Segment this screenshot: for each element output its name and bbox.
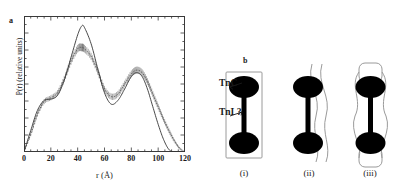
x-tick-label: 20: [47, 154, 55, 163]
x-tick-label: 0: [22, 154, 26, 163]
model-label-iii: (iii): [350, 168, 390, 178]
y-axis-label: P(r) (relative units): [15, 12, 24, 122]
x-axis-tick-labels: 020406080100120: [24, 154, 185, 166]
error-bars: [28, 43, 182, 150]
annotation-tni: TnI ?: [219, 107, 241, 117]
x-tick-label: 120: [179, 154, 191, 163]
model-label-ii: (ii): [289, 168, 329, 178]
panel-a-label: a: [9, 16, 13, 25]
model-iii-tnc-domain: [356, 76, 386, 98]
model-label-i: (i): [224, 168, 264, 178]
model-iii: [353, 63, 387, 167]
model-ii-tni-domain: [293, 132, 323, 154]
panel-a-plot: a P(r) (relative units) 020406080100120 …: [0, 0, 200, 192]
plot-canvas: [24, 16, 185, 152]
figure-root: a P(r) (relative units) 020406080100120 …: [0, 0, 405, 192]
x-tick-label: 60: [101, 154, 109, 163]
annotation-tnc: TnC: [219, 78, 237, 88]
x-axis-label: r (Å): [24, 170, 185, 180]
panel-b-diagram: b: [200, 0, 405, 192]
model-ii: [293, 64, 328, 162]
x-tick-label: 40: [74, 154, 82, 163]
models-canvas: [200, 0, 405, 192]
x-tick-label: 80: [127, 154, 135, 163]
x-tick-label: 100: [152, 154, 164, 163]
model-iii-tni-domain: [356, 132, 386, 154]
model-ii-tnc-domain: [293, 76, 323, 98]
model-i-tni-domain: [229, 132, 259, 154]
